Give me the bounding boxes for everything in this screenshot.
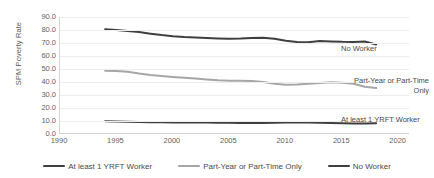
y-axis-tick-label: 60.0 [22,52,56,60]
y-axis-tick-label: 50.0 [22,65,56,73]
y-axis-tick-label: 10.0 [22,117,56,125]
series-label-at-least-1-yrft-worker: At least 1 YRFT Worker [341,115,420,125]
y-axis-tick-label: 20.0 [22,104,56,112]
x-axis-tick-label: 2020 [376,136,420,145]
x-axis-tick-label: 2005 [206,136,250,145]
y-axis-tick-label: 40.0 [22,78,56,86]
y-axis-tick-label: 80.0 [22,26,56,34]
chart-legend: At least 1 YRFT WorkerPart-Year or Part-… [0,158,434,174]
x-axis-tick-label: 2010 [263,136,307,145]
series-label-part-year-or-part-time-only: Part-Year or Part-Time Only [341,76,429,95]
gridline [60,95,409,96]
x-axis-tick-label: 1990 [37,136,81,145]
y-axis-tick-labels: 90.080.070.060.050.040.030.020.010.00.0 [22,0,56,178]
gridline [60,69,409,70]
legend-label: No Worker [353,162,391,171]
gridline [60,108,409,109]
chart-container: SPM Poverty Rate 90.080.070.060.050.040.… [0,0,434,178]
gridline [60,17,409,18]
legend-label: Part-Year or Part-Time Only [203,162,302,171]
legend-color-swatch [43,165,65,167]
series-label-no-worker: No Worker [341,44,377,54]
y-axis-tick-label: 70.0 [22,39,56,47]
legend-color-swatch [328,165,350,167]
y-axis-tick-label: 30.0 [22,91,56,99]
legend-item[interactable]: At least 1 YRFT Worker [43,162,152,171]
x-axis-tick-label: 2015 [319,136,363,145]
series-line [105,71,376,88]
legend-color-swatch [178,165,200,167]
legend-item[interactable]: Part-Year or Part-Time Only [178,162,302,171]
y-axis-tick-label: 90.0 [22,13,56,21]
x-axis-tick-label: 1995 [93,136,137,145]
x-axis-tick-label: 2000 [150,136,194,145]
legend-label: At least 1 YRFT Worker [68,162,152,171]
legend-item[interactable]: No Worker [328,162,391,171]
x-axis-tick-labels: 1990199520002005201020152020 [0,136,434,150]
gridline [60,56,409,57]
gridline [60,30,409,31]
